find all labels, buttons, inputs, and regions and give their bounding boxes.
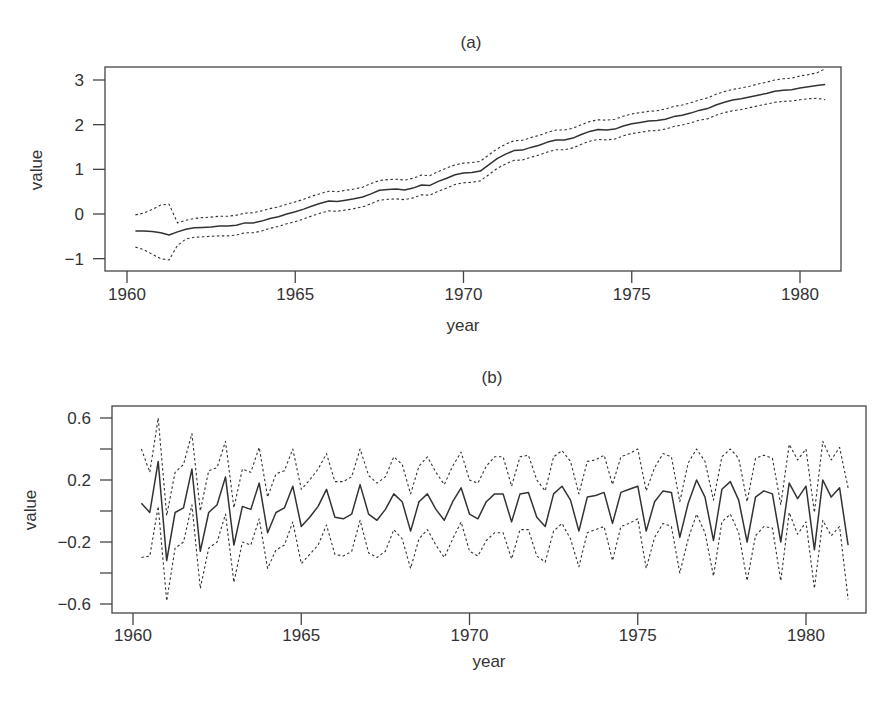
panel-a-x-axis: 19601965197019751980 bbox=[108, 271, 819, 304]
series-upper bbox=[135, 69, 825, 223]
x-tick-label: 1980 bbox=[787, 626, 825, 645]
panel-b-series bbox=[141, 418, 848, 601]
series-estimate bbox=[135, 85, 825, 236]
y-tick-label: −0.6 bbox=[57, 595, 91, 614]
panel-a-frame bbox=[105, 67, 841, 271]
y-tick-label: 1 bbox=[75, 160, 84, 179]
x-tick-label: 1965 bbox=[276, 285, 314, 304]
panel-b: (b) −0.6−0.20.20.6 19601965197019751980 … bbox=[21, 368, 866, 671]
panel-b-x-axis: 19601965197019751980 bbox=[114, 613, 825, 645]
x-tick-label: 1975 bbox=[619, 626, 657, 645]
x-tick-label: 1980 bbox=[781, 285, 819, 304]
x-tick-label: 1965 bbox=[282, 626, 320, 645]
panel-a-series bbox=[135, 69, 825, 260]
panel-a-x-label: year bbox=[446, 316, 479, 335]
panel-a-title: (a) bbox=[461, 33, 482, 52]
series-upper bbox=[141, 418, 848, 516]
y-tick-label: 0.6 bbox=[67, 409, 91, 428]
y-tick-label: 3 bbox=[75, 71, 84, 90]
y-tick-label: 2 bbox=[75, 116, 84, 135]
panel-b-title: (b) bbox=[482, 368, 503, 387]
series-lower bbox=[135, 98, 825, 260]
x-tick-label: 1970 bbox=[445, 285, 483, 304]
chart-canvas: (a) −10123 19601965197019751980 year val… bbox=[0, 0, 889, 701]
x-tick-label: 1960 bbox=[108, 285, 146, 304]
panel-b-y-axis: −0.6−0.20.20.6 bbox=[57, 409, 112, 614]
y-tick-label: −1 bbox=[65, 250, 84, 269]
panel-a-y-label: value bbox=[27, 150, 46, 191]
y-tick-label: 0.2 bbox=[67, 471, 91, 490]
y-tick-label: −0.2 bbox=[57, 533, 91, 552]
panel-a: (a) −10123 19601965197019751980 year val… bbox=[27, 33, 841, 335]
panel-b-x-label: year bbox=[472, 652, 505, 671]
y-tick-label: 0 bbox=[75, 205, 84, 224]
x-tick-label: 1975 bbox=[613, 285, 651, 304]
panel-a-y-axis: −10123 bbox=[65, 71, 105, 269]
panel-b-y-label: value bbox=[21, 490, 40, 531]
x-tick-label: 1970 bbox=[451, 626, 489, 645]
x-tick-label: 1960 bbox=[114, 626, 152, 645]
